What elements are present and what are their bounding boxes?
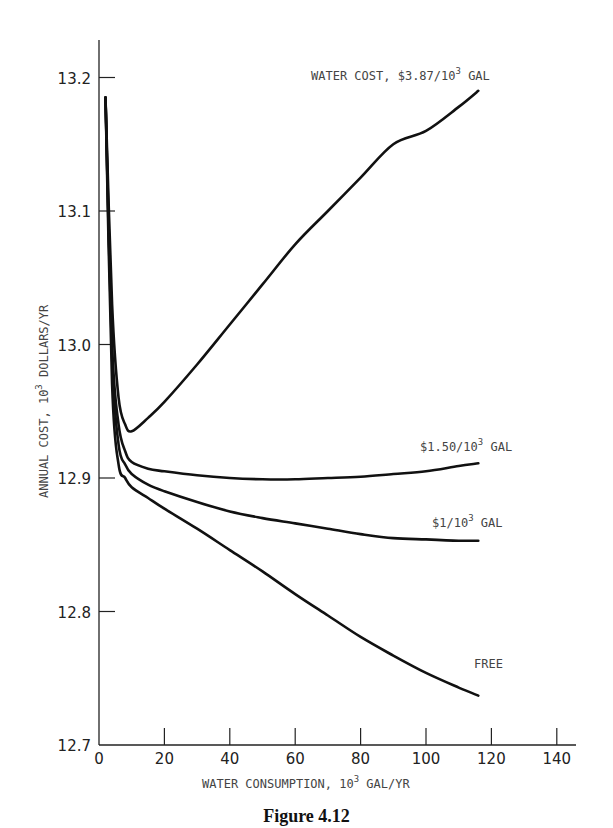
curve-series-0 xyxy=(106,91,479,432)
x-tick-label: 60 xyxy=(286,750,305,768)
x-tick-label: 20 xyxy=(155,750,174,768)
y-tick-label: 12.7 xyxy=(58,737,91,755)
x-axis-ticks: 020406080100120140 xyxy=(94,728,571,768)
x-tick-label: 100 xyxy=(412,750,441,768)
x-tick-label: 80 xyxy=(351,750,370,768)
x-tick-label: 120 xyxy=(477,750,506,768)
y-tick-label: 13.1 xyxy=(58,203,91,221)
y-tick-label: 12.8 xyxy=(58,604,91,622)
y-tick-label: 13.0 xyxy=(58,337,91,355)
y-tick-label: 12.9 xyxy=(58,470,91,488)
x-axis-title: WATER CONSUMPTION, 103 GAL/YR xyxy=(202,774,410,791)
series-label-3-87: WATER COST, $3.87/103 GAL xyxy=(311,66,490,83)
x-tick-label: 40 xyxy=(220,750,239,768)
curve-series-3 xyxy=(106,98,479,696)
series-label-free: FREE xyxy=(474,657,503,671)
series-label-1-50: $1.50/103 GAL xyxy=(420,437,512,454)
x-tick-label: 140 xyxy=(542,750,571,768)
curves xyxy=(106,91,479,696)
x-tick-label: 0 xyxy=(94,750,104,768)
series-label-1-00: $1/103 GAL xyxy=(432,513,502,530)
y-tick-label: 13.2 xyxy=(58,70,91,88)
line-chart: 12.712.812.913.013.113.2 020406080100120… xyxy=(0,0,613,800)
curve-series-1 xyxy=(106,98,479,480)
figure-caption: Figure 4.12 xyxy=(0,806,613,827)
y-axis-title: ANNUAL COST, 103 DOLLARS/YR xyxy=(34,304,51,498)
curve-series-2 xyxy=(106,98,479,541)
